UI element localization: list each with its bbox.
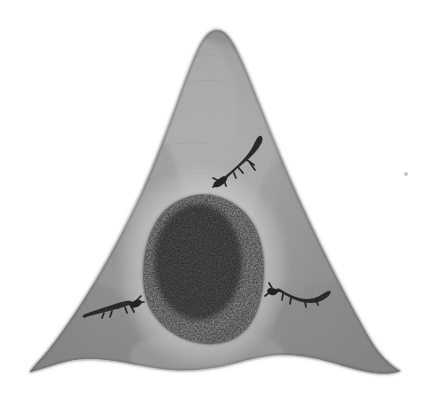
rock-mound-illustration (0, 0, 430, 398)
graphite-speck (404, 172, 408, 176)
drawing-canvas: A hand-drawn grayscale conical mound wit… (0, 0, 430, 398)
cave-opening (115, 163, 291, 371)
cave-core-shadow (154, 204, 242, 320)
